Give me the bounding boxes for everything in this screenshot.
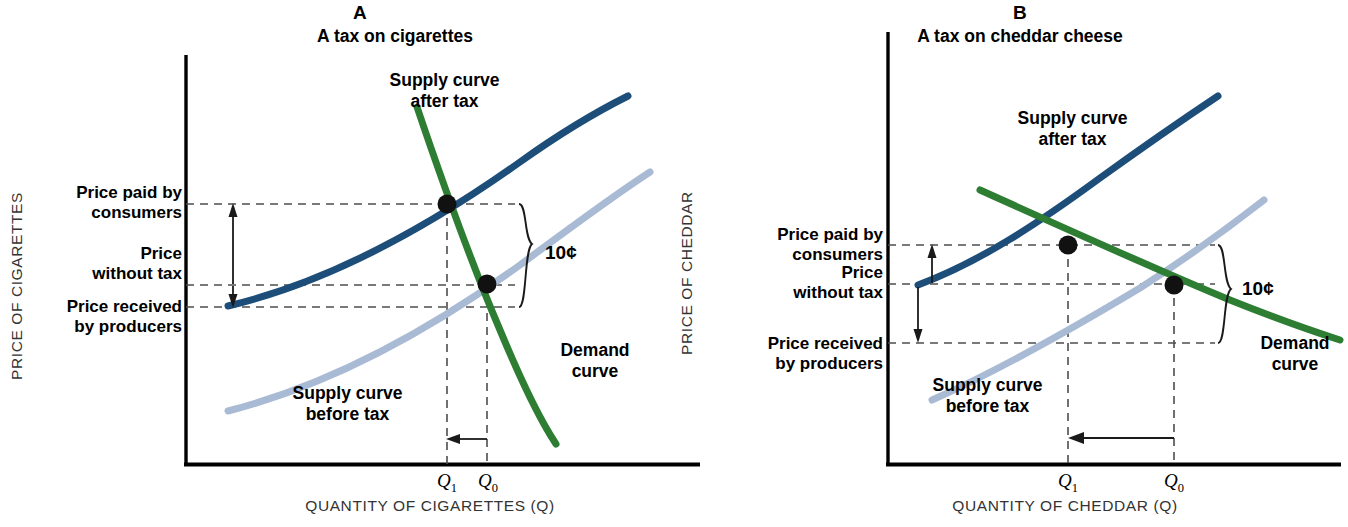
panel-a-equilibrium-before-tax-dot: [478, 275, 497, 294]
panel-a-label-price-received-by-producers: Price received by producers: [8, 297, 182, 337]
panel-b-notax-line2: without tax: [793, 283, 883, 302]
panel-a-q1-label: Q1: [437, 470, 457, 496]
panel-b-consumers-line2: consumers: [792, 245, 883, 264]
panel-a-supply-after-line2: after tax: [410, 91, 478, 111]
panel-a-supply-after-line1: Supply curve: [390, 70, 500, 90]
panel-a-demand-line1: Demand: [560, 340, 629, 360]
panel-a-notax-line2: without tax: [92, 264, 182, 283]
panel-b-q1-label: Q1: [1058, 470, 1078, 496]
panel-b-supply-after-tax-label: Supply curve after tax: [980, 108, 1165, 150]
panel-a-producers-line1: Price received: [67, 297, 182, 316]
panel-b-demand-line1: Demand: [1260, 333, 1329, 353]
panel-a-q1-subscript: 1: [451, 481, 457, 495]
panel-b-demand-line2: curve: [1272, 354, 1319, 374]
panel-a-equilibrium-after-tax-dot: [438, 195, 457, 214]
panel-a-q0-label: Q0: [478, 470, 498, 496]
panel-a-consumers-line2: consumers: [91, 203, 182, 222]
panel-b-demand-curve: [980, 190, 1340, 340]
panel-a-supply-after-tax-curve: [228, 96, 628, 306]
panel-b-equilibrium-before-tax-dot: [1165, 276, 1184, 295]
panel-b-q1-subscript: 1: [1072, 481, 1078, 495]
panel-a-producers-line2: by producers: [74, 317, 182, 336]
panel-a-supply-before-tax-label: Supply curve before tax: [255, 383, 440, 425]
chart-panel-a: A A tax on cigarettes PRICE OF CIGARETTE…: [0, 0, 670, 527]
panel-b-supply-after-line1: Supply curve: [1018, 108, 1128, 128]
panel-b-supply-before-tax-curve: [932, 200, 1264, 400]
panel-a-q0-letter: Q: [478, 470, 492, 491]
panel-a-quantity-reduction-arrow: [446, 434, 487, 444]
panel-b-quantity-reduction-arrow: [1068, 432, 1174, 444]
panel-a-demand-curve-label: Demand curve: [535, 340, 655, 382]
panel-b-supply-before-line1: Supply curve: [933, 375, 1043, 395]
panel-a-demand-line2: curve: [572, 361, 619, 381]
panel-b-supply-before-line2: before tax: [946, 396, 1030, 416]
panel-b-label-price-received-by-producers: Price received by producers: [703, 334, 883, 374]
panel-b-supply-after-line2: after tax: [1038, 129, 1106, 149]
panel-b-q1-letter: Q: [1058, 470, 1072, 491]
panel-a-label-price-paid-by-consumers: Price paid by consumers: [20, 183, 182, 223]
panel-b-producers-line2: by producers: [775, 354, 883, 373]
panel-a-consumers-line1: Price paid by: [76, 183, 182, 202]
panel-a-notax-line1: Price: [140, 244, 182, 263]
panel-b-label-price-paid-by-consumers: Price paid by consumers: [715, 225, 883, 265]
panel-a-q1-letter: Q: [437, 470, 451, 491]
panel-a-supply-before-line2: before tax: [306, 404, 390, 424]
panel-b-q0-label: Q0: [1164, 470, 1184, 496]
panel-b-q0-letter: Q: [1164, 470, 1178, 491]
panel-b-q0-subscript: 0: [1178, 481, 1184, 495]
panel-b-label-price-without-tax: Price without tax: [715, 263, 883, 303]
panel-a-q0-subscript: 0: [492, 481, 498, 495]
panel-b-demand-curve-label: Demand curve: [1240, 333, 1348, 375]
panel-b-consumers-line1: Price paid by: [777, 225, 883, 244]
panel-b-equilibrium-after-tax-dot: [1059, 236, 1078, 255]
panel-b-supply-before-tax-label: Supply curve before tax: [895, 375, 1080, 417]
panel-b-producer-price-drop-arrow: [914, 287, 923, 343]
panel-b-notax-line1: Price: [841, 263, 883, 282]
panel-b-producers-line1: Price received: [768, 334, 883, 353]
panel-b-tax-amount: 10¢: [1242, 278, 1274, 300]
panel-a-supply-before-line1: Supply curve: [293, 383, 403, 403]
panel-a-consumer-price-rise-arrow: [229, 203, 238, 284]
panel-a-supply-after-tax-label: Supply curve after tax: [352, 70, 537, 112]
panel-a-tax-amount: 10¢: [545, 242, 577, 264]
panel-a-label-price-without-tax: Price without tax: [20, 244, 182, 284]
chart-panel-b: B A tax on cheddar cheese PRICE OF CHEDD…: [670, 0, 1340, 527]
